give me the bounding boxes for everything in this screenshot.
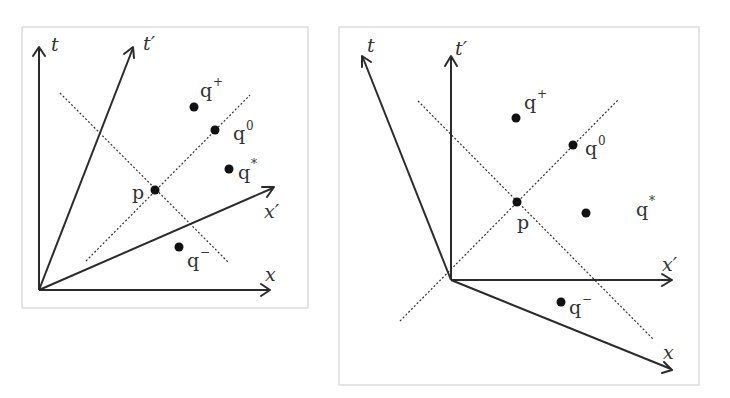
left-t-label: t [51,33,59,55]
svg-text:+: + [537,87,547,101]
svg-text:0: 0 [246,119,254,133]
right-x-label: x [663,341,674,363]
svg-text:p: p [132,181,144,203]
svg-text:+: + [213,75,223,89]
figure: t t′ x x′ p q + [0,0,730,398]
left-x-prime-label: x′ [264,200,280,222]
right-x-prime-label: x′ [662,253,678,275]
right-t-label: t [367,34,375,56]
svg-text:q: q [233,122,245,144]
svg-text:q: q [585,137,597,159]
svg-text:q: q [200,79,212,101]
right-diagram: t t′ x′ x p q + [339,27,699,385]
svg-text:−: − [200,245,210,259]
svg-text:q: q [238,161,250,183]
left-t-prime-label: t′ [143,32,156,54]
svg-text:q: q [524,91,536,113]
svg-text:q: q [636,198,648,220]
svg-text:−: − [582,292,592,306]
svg-text:q: q [187,249,199,271]
svg-text:*: * [649,194,655,208]
left-x-label: x [265,263,276,285]
right-t-prime-label: t′ [455,37,468,59]
svg-text:0: 0 [598,134,606,148]
left-diagram: t t′ x x′ p q + [22,27,308,308]
svg-text:*: * [251,157,257,171]
svg-text:q: q [569,296,581,318]
svg-text:p: p [517,211,529,233]
